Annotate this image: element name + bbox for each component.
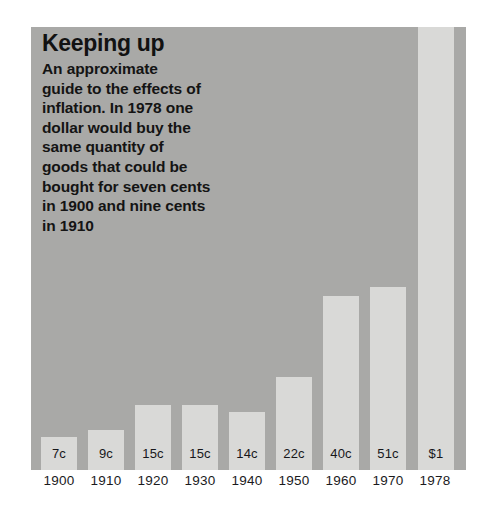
bar-1900: 7c	[41, 437, 77, 470]
chart-description-line: An approximate	[42, 59, 292, 79]
chart-description-line: inflation. In 1978 one	[42, 98, 292, 118]
bar-value-label: 40c	[323, 446, 359, 461]
x-axis-tick-1978: 1978	[407, 473, 463, 488]
bar-value-label: 7c	[41, 446, 77, 461]
bar-value-label: 22c	[276, 446, 312, 461]
bar-value-label: $1	[418, 446, 454, 461]
bar-value-label: 14c	[229, 446, 265, 461]
bar-1950: 22c	[276, 377, 312, 470]
chart-description-line: goods that could be	[42, 157, 292, 177]
chart-description-line: in 1910	[42, 216, 292, 236]
x-axis-year-labels: 190019101920193019401950196019701978	[31, 473, 466, 497]
chart-description-line: same quantity of	[42, 137, 292, 157]
chart-description-line: dollar would buy the	[42, 118, 292, 138]
chart-description-line: guide to the effects of	[42, 79, 292, 99]
bar-1978: $1	[418, 27, 454, 470]
bar-value-label: 51c	[370, 446, 406, 461]
bar-value-label: 15c	[182, 446, 218, 461]
bar-1930: 15c	[182, 405, 218, 470]
bar-value-label: 9c	[88, 446, 124, 461]
bar-1920: 15c	[135, 405, 171, 470]
chart-description-text: An approximateguide to the effects ofinf…	[42, 59, 292, 235]
chart-description-line: bought for seven cents	[42, 177, 292, 197]
chart-caption-block: Keeping up An approximateguide to the ef…	[42, 30, 292, 235]
bar-1940: 14c	[229, 412, 265, 470]
bar-1960: 40c	[323, 296, 359, 470]
bar-1970: 51c	[370, 287, 406, 470]
inflation-bar-chart-figure: 7c9c15c15c14c22c40c51c$1 Keeping up An a…	[0, 0, 483, 521]
bar-value-label: 15c	[135, 446, 171, 461]
page-title: Keeping up	[42, 30, 292, 56]
chart-description-line: in 1900 and nine cents	[42, 196, 292, 216]
bar-1910: 9c	[88, 430, 124, 470]
